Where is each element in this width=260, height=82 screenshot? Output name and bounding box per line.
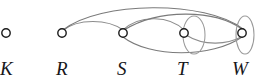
vertex-label-R: R [56,59,68,78]
vertex-label-T: T [177,59,188,78]
graph-figure: K R S T W [0,0,260,82]
vertex-label-S: S [117,59,127,78]
vertex-label-K: K [0,59,13,78]
vertex-label-W: W [232,59,248,78]
vertex-label-layer: K R S T W [0,0,260,82]
